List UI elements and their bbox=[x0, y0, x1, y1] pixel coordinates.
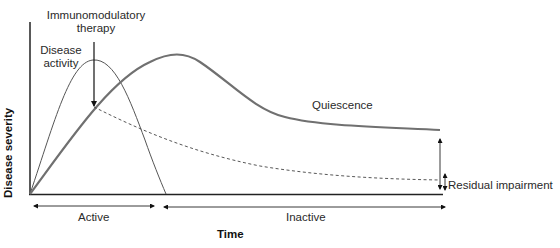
quiescence-label: Quiescence bbox=[312, 99, 373, 112]
y-axis-label: Disease severity bbox=[2, 108, 14, 198]
activity-label-line1: Disease bbox=[38, 44, 84, 57]
x-axis-label: Time bbox=[217, 228, 244, 240]
therapy-label-line2: therapy bbox=[46, 22, 146, 35]
residual-impairment-label: Residual impairment bbox=[448, 179, 553, 192]
disease-severity-curve bbox=[30, 55, 440, 195]
activity-label-line2: activity bbox=[38, 57, 84, 70]
active-phase-label: Active bbox=[78, 211, 109, 224]
therapy-label-line1: Immunomodulatory bbox=[46, 9, 146, 22]
inactive-phase-label: Inactive bbox=[286, 211, 326, 224]
therapy-annotation: Immunomodulatory therapy bbox=[46, 9, 146, 35]
disease-activity-curve bbox=[30, 60, 166, 194]
activity-annotation: Disease activity bbox=[38, 44, 84, 70]
